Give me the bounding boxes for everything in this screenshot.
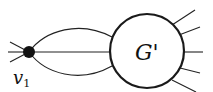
subgraph-stub-edge-4 — [180, 68, 200, 73]
edge-lower-arc — [29, 52, 112, 75]
subgraph-label: G' — [135, 40, 159, 65]
edge-upper-arc — [29, 28, 112, 52]
vertex-label: v1 — [13, 67, 30, 90]
subgraph-stub-edge-5 — [172, 80, 196, 92]
subgraph-stub-edge-2 — [179, 27, 200, 35]
subgraph-stub-edge-1 — [172, 10, 195, 25]
vertex-v1 — [23, 46, 35, 58]
vertex-label-main: v — [13, 67, 23, 88]
vertex-label-subscript: 1 — [23, 77, 30, 90]
graph-diagram: G' v1 — [0, 0, 213, 92]
